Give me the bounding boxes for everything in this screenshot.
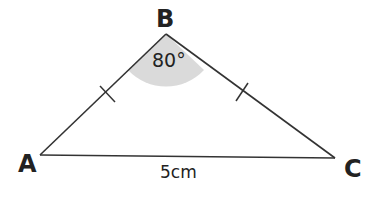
vertex-label-a: A [18,152,37,176]
vertex-label-c: C [344,157,362,181]
vertex-label-b: B [156,7,174,31]
side-bc [166,34,335,158]
side-ac [40,155,335,158]
angle-b-label: 80° [152,51,186,70]
tick-mark-ab [100,86,115,102]
base-length-label: 5cm [160,164,197,181]
side-ab [40,34,166,155]
